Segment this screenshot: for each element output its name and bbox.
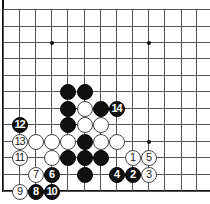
- grid-line-horizontal: [3, 26, 210, 27]
- white-stone-move-5: 5: [141, 150, 157, 166]
- white-stone: [109, 134, 125, 150]
- white-stone: [28, 134, 44, 150]
- black-stone: [93, 150, 109, 166]
- grid-line-horizontal: [3, 58, 210, 59]
- black-stone-move-10: 10: [44, 184, 60, 200]
- black-stone: [77, 134, 93, 150]
- black-stone: [60, 150, 76, 166]
- white-stone: [93, 134, 109, 150]
- black-stone-move-14: 14: [109, 101, 125, 117]
- star-point: [147, 140, 151, 144]
- black-stone-move-4: 4: [109, 167, 125, 183]
- black-stone: [60, 84, 76, 100]
- white-stone: [93, 117, 109, 133]
- white-stone-move-1: 1: [125, 150, 141, 166]
- grid-line-horizontal: [3, 91, 210, 92]
- white-stone: [44, 134, 60, 150]
- black-stone-move-12: 12: [12, 117, 28, 133]
- grid-line-horizontal: [3, 75, 210, 76]
- white-stone: [44, 150, 60, 166]
- white-stone-move-3: 3: [141, 167, 157, 183]
- white-stone-move-13: 13: [12, 134, 28, 150]
- grid-line-horizontal: [3, 42, 210, 43]
- star-point: [147, 41, 151, 45]
- black-stone: [77, 167, 93, 183]
- black-stone-move-6: 6: [44, 167, 60, 183]
- white-stone: [60, 134, 76, 150]
- grid-line-vertical: [196, 9, 197, 191]
- white-stone-move-7: 7: [28, 167, 44, 183]
- black-stone-move-8: 8: [28, 184, 44, 200]
- grid-line-vertical: [35, 9, 36, 191]
- star-point: [50, 41, 54, 45]
- white-stone-move-9: 9: [12, 184, 28, 200]
- black-stone-move-2: 2: [125, 167, 141, 183]
- white-stone: [77, 117, 93, 133]
- black-stone: [93, 101, 109, 117]
- go-board: 1412131115764239810: [0, 0, 210, 204]
- black-stone: [77, 84, 93, 100]
- grid-line-vertical: [181, 9, 182, 191]
- black-stone: [60, 117, 76, 133]
- black-stone: [77, 150, 93, 166]
- black-stone: [60, 101, 76, 117]
- grid-line-vertical: [164, 9, 165, 191]
- white-stone: [77, 101, 93, 117]
- grid-line-horizontal: [3, 9, 210, 10]
- grid-line-vertical: [3, 9, 4, 191]
- white-stone-move-11: 11: [12, 150, 28, 166]
